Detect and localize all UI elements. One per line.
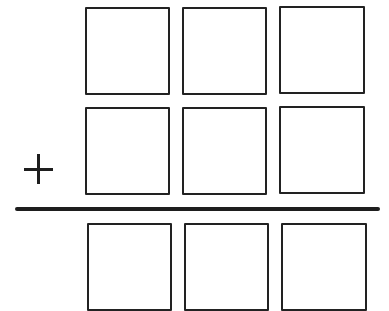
addend-2-hundreds-box[interactable] bbox=[85, 107, 170, 195]
plus-label: + bbox=[0, 0, 1, 1]
addend-2-ones-box[interactable] bbox=[279, 106, 365, 194]
addend-1-tens-box[interactable] bbox=[182, 7, 267, 95]
sum-ones-box[interactable] bbox=[281, 223, 367, 311]
addend-1-ones-box[interactable] bbox=[279, 6, 365, 94]
sum-hundreds-box[interactable] bbox=[87, 223, 172, 311]
addend-1-hundreds-box[interactable] bbox=[85, 7, 170, 95]
addend-2-tens-box[interactable] bbox=[182, 107, 267, 195]
sum-divider-line bbox=[15, 207, 380, 211]
sum-tens-box[interactable] bbox=[184, 223, 269, 311]
plus-vertical-stroke bbox=[37, 154, 40, 184]
